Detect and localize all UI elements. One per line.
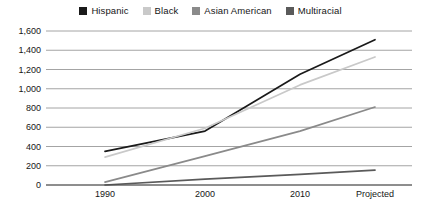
y-tick-label: 1,200 [18,65,41,75]
x-tick-label: Projected [356,189,394,199]
plot-area: 02004006008001,0001,2001,4001,600 199020… [0,0,421,212]
y-tick-label: 1,400 [18,45,41,55]
y-tick-label: 600 [26,122,41,132]
x-tick-label: 2010 [290,189,310,199]
y-tick-label: 200 [26,161,41,171]
chart-svg: 02004006008001,0001,2001,4001,600 199020… [0,0,421,212]
series-line-black [105,57,375,157]
y-tick-label: 800 [26,103,41,113]
y-tick-label: 1,000 [18,84,41,94]
x-tick-label: 2000 [195,189,215,199]
line-chart: Hispanic Black Asian American Multiracia… [0,0,421,212]
gridlines [46,31,412,185]
series-lines [105,40,375,185]
y-tick-labels: 02004006008001,0001,2001,4001,600 [18,26,41,190]
y-tick-label: 400 [26,142,41,152]
y-tick-label: 0 [36,180,41,190]
x-tick-labels: 199020002010Projected [95,189,394,199]
x-tick-label: 1990 [95,189,115,199]
series-line-hispanic [105,40,375,152]
y-tick-label: 1,600 [18,26,41,36]
